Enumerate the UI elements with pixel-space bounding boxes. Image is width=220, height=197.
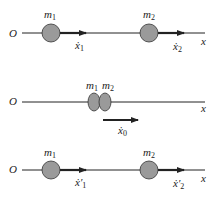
velocity-2-label: ẋ2	[172, 40, 182, 54]
mass-2-label: m2	[143, 146, 155, 160]
mass-1-label: m1	[44, 146, 56, 160]
mass-2-ball	[140, 161, 158, 179]
origin-label: O	[9, 95, 17, 107]
mass-1-label: m1	[44, 8, 56, 22]
origin-label: O	[9, 27, 17, 39]
mass-2-ball	[99, 93, 111, 111]
panel-collision: O x m1 m2 ẋ0	[9, 79, 206, 138]
velocity-1-label: ẋ′1	[74, 176, 86, 190]
mass-1-label: m1	[86, 79, 98, 93]
origin-label: O	[9, 163, 17, 175]
axis-label: x	[200, 102, 206, 114]
velocity-2-label: ẋ′2	[172, 177, 184, 191]
mass-1-ball	[88, 93, 100, 111]
panel-before: O x m1 ẋ1 m2 ẋ2	[9, 8, 206, 54]
panel-after: O x m1 ẋ′1 m2 ẋ′2	[9, 146, 206, 191]
velocity-1-label: ẋ1	[74, 39, 84, 53]
axis-label: x	[200, 35, 206, 47]
velocity-0-label: ẋ0	[117, 124, 127, 138]
mass-2-label: m2	[143, 8, 155, 22]
axis-label: x	[200, 172, 206, 184]
mass-1-ball	[42, 24, 60, 42]
mass-1-ball	[42, 161, 60, 179]
mass-2-ball	[140, 24, 158, 42]
mass-2-label: m2	[102, 79, 114, 93]
collision-diagram: O x m1 ẋ1 m2 ẋ2 O x m1 m2 ẋ0 O x m1 ẋ′1 …	[0, 0, 220, 197]
